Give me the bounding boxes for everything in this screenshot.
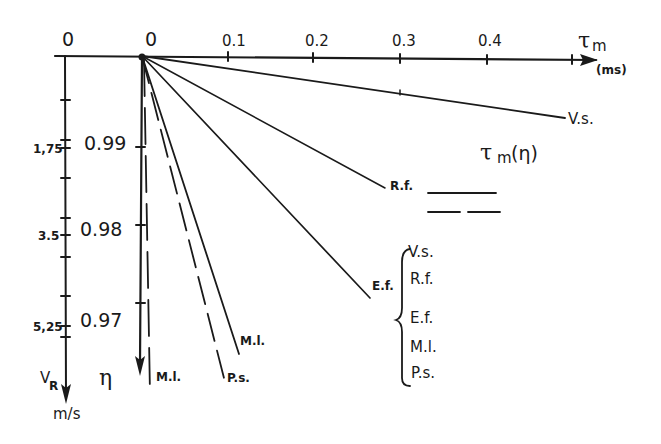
vr-axis: 1,75 3.5 5,25 V R m/s [33, 56, 81, 423]
tau-eta-diagram: 0 0 0.1 0.2 0.3 0.4 τ m (ms) 1,75 3.5 5,… [0, 0, 661, 444]
tau-tick-0.2: 0.2 [305, 32, 329, 50]
legend-brace-icon [396, 249, 410, 386]
legend-title-subscript: m [497, 149, 512, 167]
line-ps-dashed-label: P.s. [227, 371, 250, 385]
eta-tick-0.97: 0.97 [80, 309, 122, 331]
tau-axis-subscript: m [592, 37, 607, 55]
tau-tick-0.4: 0.4 [478, 32, 502, 50]
tau-axis: 0 0 0.1 0.2 0.3 0.4 τ m (ms) [55, 28, 627, 77]
eta-tick-0.99: 0.99 [84, 132, 126, 154]
line-vs-label: V.s. [568, 110, 594, 128]
vr-tick-3.5: 3.5 [38, 229, 59, 243]
tau-axis-symbol: τ [578, 28, 590, 53]
eta-axis: 0.99 0.98 0.97 η [80, 56, 145, 390]
legend-item-ml: M.l. [410, 338, 437, 356]
line-ef-label: E.f. [372, 279, 394, 293]
line-ml-solid-label: M.l. [240, 334, 265, 348]
vr-tick-5.25: 5,25 [33, 320, 63, 334]
line-ml-dashed: M.l. [144, 60, 181, 394]
tau-axis-unit: (ms) [596, 63, 627, 77]
vr-axis-subscript: R [49, 379, 58, 393]
line-rf-label: R.f. [390, 179, 413, 193]
vr-axis-unit: m/s [53, 405, 81, 423]
legend-item-ps: P.s. [411, 364, 435, 382]
eta-tick-0.98: 0.98 [80, 218, 122, 240]
legend-item-rf: R.f. [410, 270, 434, 288]
left-origin-label: 0 [62, 28, 74, 50]
vr-tick-1.75: 1,75 [33, 142, 63, 156]
legend-title-suffix: (η) [511, 142, 538, 164]
tau-tick-0.3: 0.3 [392, 32, 416, 50]
legend-item-vs: V.s. [408, 243, 434, 261]
legend-item-ef: E.f. [410, 309, 433, 327]
legend: τ m (η) V.s. R.f. E.f. M.l. P.s. [396, 140, 538, 386]
tau-tick-0: 0 [145, 28, 157, 50]
eta-axis-symbol: η [99, 365, 112, 390]
tau-tick-0.1: 0.1 [222, 32, 246, 50]
legend-title-symbol: τ [480, 140, 492, 165]
origin-point [139, 54, 146, 61]
line-ml-dashed-label: M.l. [156, 370, 181, 384]
line-ml-solid: M.l. [142, 56, 265, 354]
line-ef: E.f. [142, 56, 394, 298]
